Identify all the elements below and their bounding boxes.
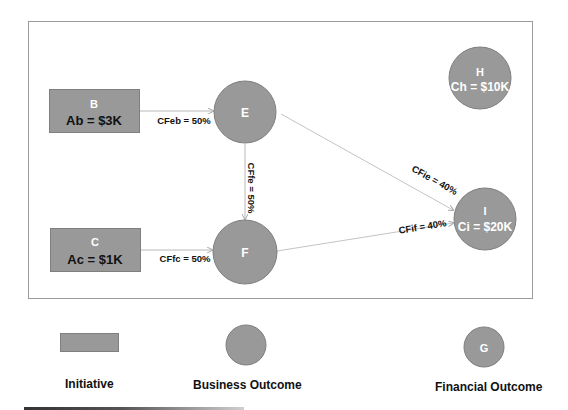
- node-i-financial-outcome[interactable]: I Ci = $20K: [454, 188, 516, 250]
- node-f-business-outcome[interactable]: F: [213, 220, 277, 284]
- edge-label-eb: CFeb = 50%: [157, 115, 211, 126]
- node-id: H: [476, 66, 484, 78]
- financial-outcome-circle: [449, 47, 511, 109]
- edge-label-fc: CFfc = 50%: [160, 253, 212, 264]
- diagram-canvas: CFeb = 50% CFfc = 50% CFfe = 50% CFie = …: [0, 0, 568, 410]
- node-value: Ac = $1K: [67, 252, 123, 267]
- legend-business-outcome-label: Business Outcome: [193, 378, 302, 392]
- node-id: B: [90, 98, 98, 110]
- node-h-financial-outcome[interactable]: H Ch = $10K: [449, 47, 511, 109]
- node-value: Ch = $10K: [451, 80, 510, 94]
- node-value: Ab = $3K: [66, 113, 123, 128]
- edge-label-fe: CFfe = 50%: [246, 163, 257, 215]
- node-e-business-outcome[interactable]: E: [214, 81, 276, 143]
- legend-financial-outcome-symbol: G: [464, 327, 504, 367]
- node-id: C: [91, 236, 99, 248]
- node-c-initiative[interactable]: C Ac = $1K: [51, 229, 141, 272]
- node-value: Ci = $20K: [458, 220, 513, 234]
- legend-initiative-label: Initiative: [65, 377, 114, 391]
- legend-initiative-symbol: [61, 334, 119, 352]
- node-id: F: [241, 246, 248, 260]
- legend-symbol-text: G: [480, 342, 489, 354]
- node-id: E: [241, 106, 249, 120]
- legend-business-outcome-symbol: [226, 325, 266, 365]
- financial-outcome-circle: [454, 188, 516, 250]
- node-id: I: [483, 205, 486, 217]
- node-b-initiative[interactable]: B Ab = $3K: [50, 90, 140, 133]
- legend-financial-outcome-label: Financial Outcome: [435, 380, 542, 394]
